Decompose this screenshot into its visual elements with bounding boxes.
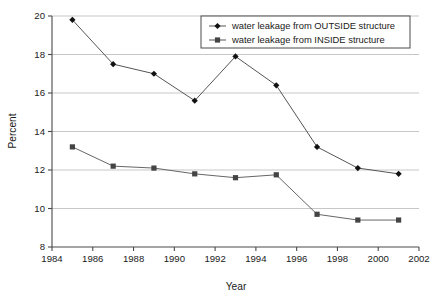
legend-group: water leakage from OUTSIDE structurewate… [201, 16, 410, 48]
y-axis-title: Percent [7, 113, 18, 148]
legend-label-1: water leakage from INSIDE structure [231, 34, 385, 45]
data-point-inside-1997 [314, 212, 319, 217]
x-tick-label-1998: 1998 [327, 253, 348, 264]
x-tick-label-1984: 1984 [41, 253, 63, 264]
y-tick-label-20: 20 [34, 10, 45, 21]
y-tick-label-14: 14 [34, 126, 45, 137]
x-tick-label-1988: 1988 [123, 253, 144, 264]
legend-entry-1[interactable]: water leakage from INSIDE structure [209, 34, 385, 45]
data-point-inside-1995 [274, 172, 279, 177]
y-axis-group: 8101214161820 [34, 10, 52, 252]
data-point-inside-1991 [192, 171, 197, 176]
data-point-inside-1985 [70, 144, 75, 149]
data-point-outside-1995 [273, 82, 279, 88]
data-point-outside-1989 [151, 71, 157, 77]
x-tick-label-2002: 2002 [408, 253, 429, 264]
legend-entry-0[interactable]: water leakage from OUTSIDE structure [209, 20, 395, 31]
data-point-inside-1999 [355, 217, 360, 222]
x-tick-label-1986: 1986 [82, 253, 103, 264]
series-inside [70, 144, 401, 222]
square-marker-icon [215, 37, 220, 42]
y-tick-label-10: 10 [34, 203, 45, 214]
y-tick-label-12: 12 [34, 164, 45, 175]
x-tick-label-2000: 2000 [368, 253, 389, 264]
data-point-inside-2001 [396, 217, 401, 222]
data-point-outside-1997 [314, 144, 320, 150]
x-tick-label-1992: 1992 [204, 253, 225, 264]
data-point-outside-2001 [396, 171, 402, 177]
x-tick-label-1996: 1996 [286, 253, 307, 264]
legend-label-0: water leakage from OUTSIDE structure [231, 20, 395, 31]
y-tick-label-18: 18 [34, 49, 45, 60]
x-axis-group: 1984198619881990199219941996199820002002 [41, 247, 429, 264]
chart-figure: 8101214161820 19841986198819901992199419… [0, 0, 434, 301]
data-point-inside-1993 [233, 175, 238, 180]
x-tick-label-1990: 1990 [164, 253, 185, 264]
x-tick-label-1994: 1994 [245, 253, 267, 264]
data-point-inside-1989 [151, 165, 156, 170]
data-point-inside-1987 [111, 164, 116, 169]
line-chart-canvas: 8101214161820 19841986198819901992199419… [0, 0, 434, 301]
y-tick-label-16: 16 [34, 87, 45, 98]
y-tick-label-8: 8 [40, 241, 45, 252]
x-axis-title: Year [226, 281, 247, 292]
series-line-inside [72, 147, 398, 220]
